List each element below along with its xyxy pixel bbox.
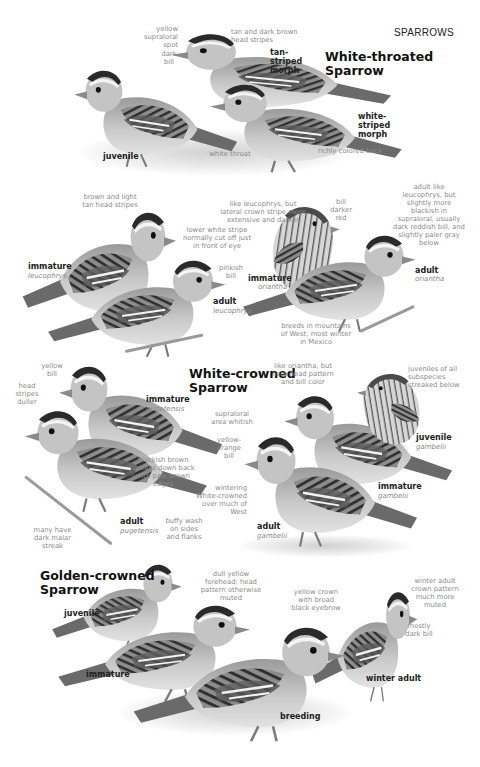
- note-supraloral-whitish: supraloral area whitish: [210, 410, 254, 426]
- note-tan-dark-stripes: tan and dark brown head stripes: [231, 28, 299, 44]
- note-yellow-supraloral: yellow supraloral spot: [130, 25, 178, 49]
- label-juvenile-gambelii-sub: gambelii: [416, 443, 446, 451]
- label-juvenile-golden-crowned: juvenile: [64, 609, 100, 618]
- note-dull-yellow-forehead: dull yellow forehead; head pattern other…: [198, 570, 264, 602]
- note-buffy-wash: buffy wash on sides and flanks: [163, 517, 205, 541]
- white-crowned-adult-leucophrys-illustration: [45, 250, 230, 360]
- section-header: SPARROWS: [394, 27, 454, 38]
- label-immature-gambelii: immature: [378, 482, 422, 491]
- note-head-stripes-duller: head stripes duller: [15, 382, 39, 406]
- label-white-striped-morph: white-striped morph: [358, 112, 412, 139]
- label-juvenile-gambelii: juvenile: [416, 433, 452, 442]
- label-immature-leucophrys-sub: leucophrys: [28, 272, 66, 280]
- note-juveniles-all-subspecies: juveniles of all subspecies streaked bel…: [408, 365, 468, 389]
- label-adult-gambelii: adult: [257, 522, 280, 531]
- label-adult-gambelii-sub: gambelii: [257, 532, 287, 540]
- label-adult-pugetensis: adult: [120, 517, 143, 526]
- species-title-white-throated: White-throated Sparrow: [325, 50, 433, 78]
- note-wintering-white-crowned: wintering White-crowned over much of Wes…: [195, 484, 247, 516]
- note-blackish-brown-streaks: blackish brown streaks down back with pa…: [130, 456, 196, 488]
- label-adult-leucophrys: adult: [213, 297, 236, 306]
- note-breeds-mountains: breeds in mountains of West; most winter…: [280, 322, 352, 346]
- note-yellow-bill: yellow bill: [40, 362, 64, 378]
- note-many-dark-malar: many have dark malar streak: [25, 526, 80, 550]
- label-adult-oriantha-sub: oriantha: [415, 275, 444, 283]
- note-white-throat: white throat: [205, 150, 255, 158]
- label-immature-pugetensis-sub: pugetensis: [146, 405, 184, 413]
- note-yellow-crown: yellow crown with broad black eyebrow: [290, 588, 342, 612]
- note-winter-adult-crown: winter adult crown pattern much more mut…: [405, 577, 465, 609]
- note-bill-darker-red: bill darker red: [330, 198, 352, 222]
- note-brown-light-tan: brown and light tan head stripes: [80, 193, 140, 209]
- note-yellow-orange-bill: yellow-orange bill: [215, 436, 243, 460]
- species-title-golden-crowned: Golden-crowned Sparrow: [40, 569, 155, 597]
- label-immature-leucophrys: immature: [28, 262, 72, 271]
- label-juvenile-white-throated: juvenile: [103, 152, 139, 161]
- note-lower-white-stripe: lower white stripe normally cut off just…: [182, 226, 252, 250]
- label-immature-gambelii-sub: gambelii: [378, 492, 408, 500]
- label-tan-striped-morph: tan-striped morph: [270, 48, 314, 75]
- label-breeding: breeding: [280, 712, 320, 721]
- label-adult-oriantha: adult: [415, 266, 438, 275]
- note-mostly-dark-bill: mostly dark bill: [405, 622, 433, 638]
- label-adult-pugetensis-sub: pugetensis: [120, 527, 158, 535]
- note-dark-bill: dark bill: [160, 50, 178, 66]
- label-adult-leucophrys-sub: leucophrys: [213, 307, 251, 315]
- label-immature-oriantha: immature: [248, 274, 292, 283]
- note-like-oriantha: like oriantha, but note head pattern and…: [272, 362, 334, 386]
- golden-crowned-breeding-illustration: [130, 615, 350, 745]
- label-winter-adult: winter adult: [366, 674, 421, 683]
- note-like-leucophrys-lateral: like leucophrys, but lateral crown strip…: [218, 200, 308, 224]
- field-guide-page: SPARROWS: [0, 0, 480, 767]
- label-immature-pugetensis: immature: [146, 395, 190, 404]
- note-adult-like-leucophrys: adult like leucophrys, but slightly more…: [393, 183, 465, 247]
- note-pinkish-bill: pinkish bill: [218, 264, 244, 280]
- label-immature-golden-crowned: immature: [86, 670, 130, 679]
- label-immature-oriantha-sub: oriantha: [258, 283, 287, 291]
- note-richly-colored-back: richly colored back: [310, 147, 390, 155]
